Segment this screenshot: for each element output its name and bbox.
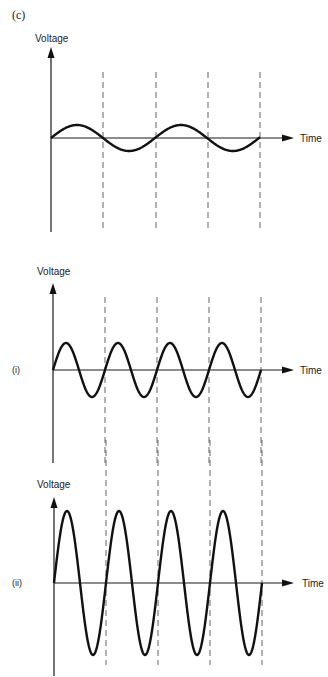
x-axis-label: Time <box>302 578 324 589</box>
panel-i: Voltage Time (i) <box>12 266 322 463</box>
x-axis-label: Time <box>300 365 322 376</box>
panel-sublabel: (ii) <box>12 578 22 588</box>
figure-label: (c) <box>12 8 25 22</box>
x-axis-arrow-icon <box>282 367 294 374</box>
panel-reference: Voltage Time <box>35 33 322 232</box>
x-axis-label: Time <box>300 133 322 144</box>
y-axis-arrow-icon <box>51 497 58 508</box>
y-axis-label: Voltage <box>37 479 71 490</box>
x-axis-arrow-icon <box>282 135 294 142</box>
y-axis-label: Voltage <box>37 266 71 277</box>
panel-ii: Voltage Time (ii) <box>12 440 324 676</box>
y-axis-arrow-icon <box>50 283 57 294</box>
y-axis-arrow-icon <box>48 47 55 58</box>
y-axis-label: Voltage <box>35 33 69 44</box>
x-axis-arrow-icon <box>282 580 294 587</box>
panel-sublabel: (i) <box>12 365 20 375</box>
waveform-diagram: (c) Voltage Time Voltage Time (i) Voltag… <box>0 0 328 677</box>
